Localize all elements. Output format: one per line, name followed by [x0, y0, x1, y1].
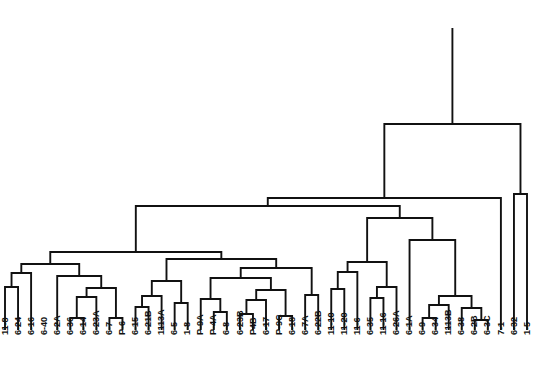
leaf-label-32: 6-1A — [404, 315, 414, 335]
dendrogram-merge-m38 — [514, 194, 527, 330]
leaf-label-22: P-9C — [274, 314, 284, 335]
leaf-label-9: 6-7 — [104, 322, 114, 335]
dendrogram-chart: 11-86-246-166-406-2A6-366-146-23A6-7P-66… — [0, 0, 543, 392]
leaf-label-39: 7-1 — [496, 322, 506, 335]
dendrogram-merge-m28 — [348, 262, 387, 287]
leaf-label-27: 11-20 — [339, 313, 349, 336]
dendrogram-merge-m23 — [50, 252, 221, 264]
leaf-label-31: 6-26A — [391, 310, 401, 335]
leaf-label-23: 6-18 — [287, 317, 297, 335]
leaf-label-3: 6-16 — [26, 317, 36, 335]
leaf-label-34: 6-34 — [430, 316, 440, 335]
leaf-label-29: 6-35 — [365, 317, 375, 335]
leaf-label-25: 6-22B — [313, 310, 323, 335]
leaf-label-7: 6-14 — [78, 316, 88, 335]
leaf-label-26: 11-10 — [326, 313, 336, 336]
leaf-label-10: P-6 — [117, 321, 127, 335]
leaf-label-8: 6-23A — [91, 310, 101, 335]
leaf-label-24: 6-7A — [300, 315, 310, 335]
leaf-label-33: 6-9 — [417, 322, 427, 335]
leaf-label-30: 11-16 — [378, 313, 388, 336]
leaf-label-37: 6-2B — [469, 315, 479, 335]
leaf-label-20: P4B — [248, 317, 258, 335]
dendrogram-merge-m12 — [152, 281, 181, 303]
leaf-label-1: 11-8 — [0, 318, 10, 335]
leaf-label-40: 6-32 — [509, 317, 519, 335]
dendrogram-merge-m8 — [21, 264, 79, 276]
dendrogram-merge-m33 — [439, 296, 472, 308]
leaf-label-2: 6-24 — [13, 316, 23, 335]
leaf-label-15: 1-8 — [182, 322, 192, 335]
leaf-label-17: P-4A — [208, 314, 218, 335]
leaf-label-16: P-9A — [195, 314, 205, 335]
dendrogram-merge-m19 — [211, 278, 271, 299]
leaf-label-21: 6-17 — [261, 317, 271, 335]
leaf-label-4: 6-40 — [39, 317, 49, 335]
leaf-label-38: 6-3C — [482, 315, 492, 335]
leaf-label-36: 6-38 — [456, 317, 466, 335]
leaf-label-5: 6-2A — [52, 315, 62, 335]
leaf-label-19: 6-23B — [235, 310, 245, 335]
leaf-label-14: 6-5 — [169, 322, 179, 335]
dendrogram-merge-m39 — [384, 124, 520, 198]
leaf-label-12: 6-21B — [143, 310, 153, 335]
dendrogram-merge-m36 — [136, 206, 400, 252]
dendrogram-canvas: 11-86-246-166-406-2A6-366-146-23A6-7P-66… — [0, 0, 543, 392]
dendrogram-links — [5, 28, 527, 330]
dendrogram-merge-m18 — [256, 290, 285, 316]
leaf-label-28: 11-6 — [352, 318, 362, 335]
leaf-label-11: 6-15 — [130, 317, 140, 335]
leaf-label-35: 1113B — [443, 309, 453, 335]
leaf-label-13: 1113A — [156, 309, 166, 335]
leaf-label-6: 6-36 — [65, 317, 75, 335]
leaf-label-41: 1-5 — [522, 322, 532, 335]
leaf-label-18: 6-8 — [221, 322, 231, 335]
